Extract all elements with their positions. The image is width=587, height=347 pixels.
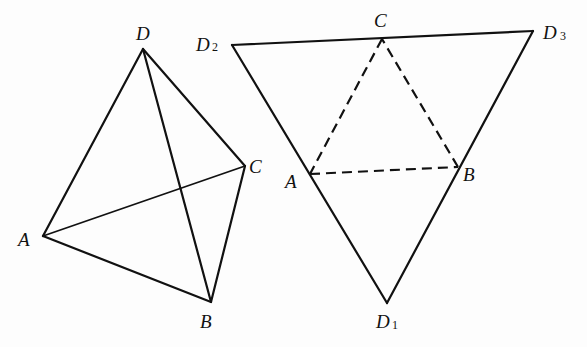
label-d1: D <box>375 311 390 332</box>
label-net-b: B <box>463 164 475 185</box>
dashed-edge-bc <box>382 39 458 167</box>
tetrahedron-abcd: D C A B <box>16 23 262 332</box>
edge-d3d1 <box>387 31 533 303</box>
edge-da <box>43 49 143 236</box>
dashed-edge-ca <box>310 39 382 174</box>
label-b: B <box>200 311 212 332</box>
diagram-canvas: D C A B C A B D 2 D 3 D 1 <box>0 0 587 347</box>
label-d1-subscript: 1 <box>392 318 398 332</box>
label-a: A <box>16 229 30 250</box>
label-d3-subscript: 3 <box>560 29 566 43</box>
label-c: C <box>249 156 262 177</box>
geometry-figure: D C A B C A B D 2 D 3 D 1 <box>0 0 587 347</box>
edge-bc <box>211 166 245 302</box>
edge-d2d3 <box>232 31 533 45</box>
label-d3: D <box>542 22 557 43</box>
label-net-c: C <box>374 10 387 31</box>
edge-ab <box>43 236 211 302</box>
dashed-edge-ab <box>310 167 458 174</box>
edge-ac <box>43 166 245 236</box>
label-d2-subscript: 2 <box>212 40 218 54</box>
label-net-a: A <box>283 171 297 192</box>
label-d2: D <box>195 34 210 55</box>
label-d: D <box>135 23 150 44</box>
